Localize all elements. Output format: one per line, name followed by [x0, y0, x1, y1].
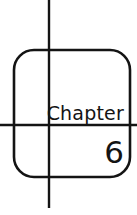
chapter-divider-artwork: Chapter 6: [0, 0, 137, 215]
chapter-label: Chapter: [47, 102, 124, 124]
chapter-number: 6: [104, 134, 124, 170]
chapter-divider-illustration: Chapter 6: [0, 0, 137, 215]
